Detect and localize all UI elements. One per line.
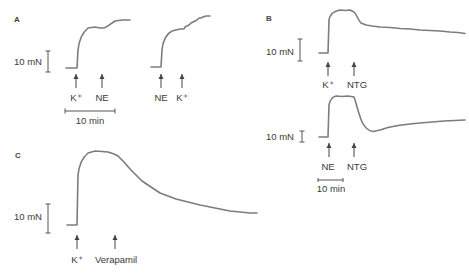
arrow-icon bbox=[113, 235, 118, 249]
arrow-icon bbox=[74, 74, 79, 88]
event-label: NTG bbox=[347, 161, 367, 172]
event-label: NE bbox=[154, 92, 167, 103]
arrow-icon bbox=[327, 143, 332, 157]
force-scale-bar-a bbox=[46, 51, 51, 72]
trace-a-ne-then-k bbox=[151, 16, 210, 67]
arrow-icon bbox=[159, 74, 164, 88]
force-scale-label-a: 10 mN bbox=[14, 56, 42, 67]
arrow-icon bbox=[352, 143, 357, 157]
time-scale-label-b: 10 min bbox=[317, 183, 346, 194]
panel-a: A 10 mN K⁺ NE 10 min NE K⁺ bbox=[14, 15, 210, 126]
panel-label-b: B bbox=[266, 14, 272, 23]
event-label: K⁺ bbox=[322, 79, 333, 90]
force-scale-bar-b-top bbox=[298, 39, 303, 61]
event-label: NE bbox=[321, 161, 334, 172]
time-scale-bar-b bbox=[318, 178, 343, 182]
arrow-icon bbox=[180, 74, 185, 88]
event-label: Verapamil bbox=[95, 254, 137, 265]
trace-b-k-then-ntg bbox=[319, 10, 465, 53]
panel-label-a: A bbox=[14, 15, 20, 24]
arrow-icon bbox=[100, 74, 105, 88]
arrow-icon bbox=[75, 235, 80, 249]
force-scale-label-c: 10 mN bbox=[14, 211, 42, 222]
trace-c-k-then-verapamil bbox=[67, 151, 257, 225]
event-label: NTG bbox=[347, 79, 367, 90]
arrow-icon bbox=[352, 62, 357, 76]
time-scale-bar-a bbox=[65, 109, 115, 114]
panel-c: C 10 mN K⁺ Verapamil bbox=[14, 151, 257, 265]
arrow-icon bbox=[326, 62, 331, 76]
force-scale-bar-c bbox=[46, 204, 51, 233]
time-scale-label-a: 10 min bbox=[76, 115, 105, 126]
force-scale-label-b-top: 10 mN bbox=[266, 46, 294, 57]
panel-label-c: C bbox=[15, 151, 21, 160]
event-label: K⁺ bbox=[70, 92, 81, 103]
event-label: NE bbox=[95, 92, 108, 103]
panel-b: B 10 mN K⁺ NTG 10 mN NE NTG 10 min bbox=[266, 10, 465, 194]
trace-b-ne-then-ntg bbox=[319, 96, 465, 137]
figure: A 10 mN K⁺ NE 10 min NE K⁺ B 10 mN bbox=[0, 0, 469, 277]
event-label: K⁺ bbox=[176, 92, 187, 103]
event-label: K⁺ bbox=[71, 254, 82, 265]
force-scale-bar-b-bottom bbox=[300, 131, 305, 142]
force-scale-label-b-bottom: 10 mN bbox=[266, 131, 294, 142]
trace-a-k-then-ne bbox=[66, 20, 130, 68]
